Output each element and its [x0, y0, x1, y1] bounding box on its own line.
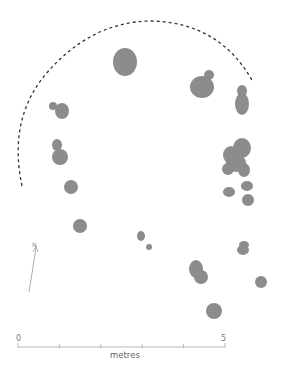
- posthole-feature: [73, 219, 87, 233]
- posthole-feature: [241, 181, 253, 191]
- scale-end-label: 5: [221, 334, 226, 343]
- posthole-feature: [113, 48, 137, 76]
- posthole-feature: [137, 231, 145, 241]
- site-plan: [0, 0, 281, 377]
- north-arrow: [29, 246, 38, 292]
- posthole-feature: [146, 244, 152, 250]
- posthole-feature: [242, 194, 254, 206]
- posthole-feature: [194, 270, 208, 284]
- posthole-feature: [238, 163, 250, 177]
- posthole-feature: [255, 276, 267, 288]
- posthole-feature: [52, 149, 68, 165]
- posthole-feature: [204, 70, 214, 80]
- scale-start-label: 0: [16, 334, 21, 343]
- posthole-feature: [206, 303, 222, 319]
- posthole-feature: [223, 187, 235, 197]
- posthole-feature: [64, 180, 78, 194]
- north-label: N: [32, 241, 37, 248]
- feature-group: [49, 48, 267, 319]
- posthole-feature: [222, 163, 234, 175]
- posthole-feature: [237, 245, 249, 255]
- scale-bar: [18, 343, 225, 348]
- scale-unit-label: metres: [110, 350, 140, 360]
- posthole-feature: [235, 93, 249, 115]
- posthole-feature: [55, 103, 69, 119]
